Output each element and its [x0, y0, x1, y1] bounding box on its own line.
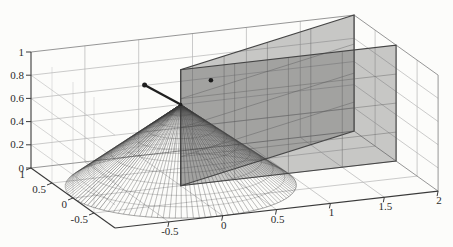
- x-tick-label: 1.5: [378, 200, 392, 212]
- vector-arrow-tip: [142, 83, 147, 88]
- plane-point-marker: [209, 78, 214, 83]
- z-tick-label: 0.6: [10, 92, 24, 104]
- z-tick-label: 0.8: [10, 69, 24, 81]
- x-tick-label: -0.5: [161, 225, 179, 237]
- x-tick-label: 1: [329, 206, 335, 218]
- y-tick-label: 0.5: [32, 183, 46, 195]
- z-tick-label: 0.4: [10, 115, 24, 127]
- z-tick-label: 0.2: [10, 138, 24, 150]
- cone-apex-point: [179, 103, 182, 106]
- x-tick-label: 2: [436, 194, 442, 206]
- x-tick-label: 0.5: [271, 213, 285, 225]
- plot-canvas: -0.500.511.5210.50-0.500.20.40.60.81: [0, 0, 453, 247]
- y-tick-label: 0: [62, 198, 68, 210]
- vector-arrow: [145, 85, 181, 105]
- matlab-3d-figure: -0.500.511.5210.50-0.500.20.40.60.81: [0, 0, 453, 247]
- x-tick-label: 0: [221, 219, 227, 231]
- y-tick-label: -0.5: [71, 213, 89, 225]
- z-tick-label: 1: [19, 46, 25, 58]
- z-tick-label: 0: [19, 162, 25, 174]
- planes: [181, 15, 396, 186]
